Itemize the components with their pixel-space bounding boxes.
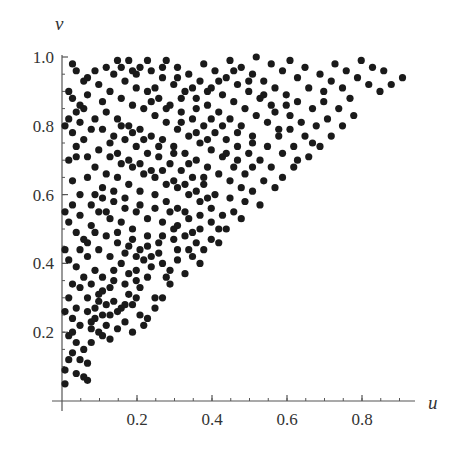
data-point: [174, 205, 181, 212]
data-point: [238, 215, 245, 222]
data-point: [174, 256, 181, 263]
data-point: [114, 308, 121, 315]
data-point: [286, 126, 293, 133]
data-point: [163, 274, 170, 281]
data-point: [256, 201, 263, 208]
data-point: [144, 315, 151, 322]
data-point: [365, 81, 372, 88]
data-point: [305, 153, 312, 160]
data-point: [91, 267, 98, 274]
data-point: [118, 122, 125, 129]
data-point: [211, 191, 218, 198]
data-point: [200, 174, 207, 181]
data-point: [110, 267, 117, 274]
data-point: [320, 98, 327, 105]
data-point: [189, 174, 196, 181]
data-point: [189, 253, 196, 260]
data-point: [69, 315, 76, 322]
data-point: [196, 225, 203, 232]
data-point: [73, 305, 80, 312]
data-point: [328, 77, 335, 84]
data-point: [215, 239, 222, 246]
data-point: [166, 160, 173, 167]
y-tick-label: 0.8: [33, 117, 54, 136]
data-point: [245, 88, 252, 95]
x-tick-label: 0.4: [201, 410, 223, 429]
data-point: [159, 260, 166, 267]
data-point: [69, 60, 76, 67]
data-point: [133, 294, 140, 301]
data-point: [73, 108, 80, 115]
data-point: [76, 119, 83, 126]
data-point: [99, 184, 106, 191]
data-point: [140, 322, 147, 329]
data-point: [155, 143, 162, 150]
data-point: [185, 246, 192, 253]
data-point: [133, 84, 140, 91]
data-point: [226, 57, 233, 64]
data-point: [234, 81, 241, 88]
data-point: [61, 122, 68, 129]
data-point: [271, 84, 278, 91]
data-point: [271, 108, 278, 115]
data-point: [155, 249, 162, 256]
data-point: [151, 205, 158, 212]
data-point: [125, 57, 132, 64]
data-point: [106, 253, 113, 260]
data-point: [238, 64, 245, 71]
data-point: [196, 77, 203, 84]
data-point: [290, 143, 297, 150]
data-point: [324, 115, 331, 122]
data-point: [61, 366, 68, 373]
data-point: [226, 177, 233, 184]
data-point: [286, 112, 293, 119]
data-point: [174, 74, 181, 81]
data-point: [230, 208, 237, 215]
data-point: [91, 305, 98, 312]
data-point: [110, 198, 117, 205]
data-point: [196, 212, 203, 219]
data-point: [208, 146, 215, 153]
data-point: [129, 225, 136, 232]
data-point: [76, 191, 83, 198]
data-point: [313, 122, 320, 129]
data-point: [170, 150, 177, 157]
data-point: [121, 136, 128, 143]
data-point: [245, 77, 252, 84]
data-point: [159, 232, 166, 239]
data-point: [174, 246, 181, 253]
data-point: [148, 133, 155, 140]
data-point: [234, 129, 241, 136]
data-point: [249, 163, 256, 170]
data-point: [121, 249, 128, 256]
data-point: [140, 105, 147, 112]
data-point: [268, 60, 275, 67]
data-point: [88, 280, 95, 287]
data-point: [223, 136, 230, 143]
data-point: [159, 136, 166, 143]
data-point: [114, 115, 121, 122]
data-point: [185, 191, 192, 198]
data-point: [76, 212, 83, 219]
data-point: [65, 115, 72, 122]
data-point: [159, 74, 166, 81]
data-point: [219, 212, 226, 219]
data-point: [103, 322, 110, 329]
data-point: [309, 139, 316, 146]
data-point: [178, 167, 185, 174]
data-point: [76, 322, 83, 329]
data-point: [193, 188, 200, 195]
data-point: [84, 174, 91, 181]
data-point: [121, 205, 128, 212]
data-point: [163, 198, 170, 205]
data-point: [133, 253, 140, 260]
data-point: [181, 232, 188, 239]
data-point: [61, 380, 68, 387]
data-point: [95, 246, 102, 253]
data-point: [189, 84, 196, 91]
data-point: [215, 108, 222, 115]
data-point: [69, 349, 76, 356]
data-point: [80, 136, 87, 143]
data-point: [76, 356, 83, 363]
data-point: [73, 339, 80, 346]
